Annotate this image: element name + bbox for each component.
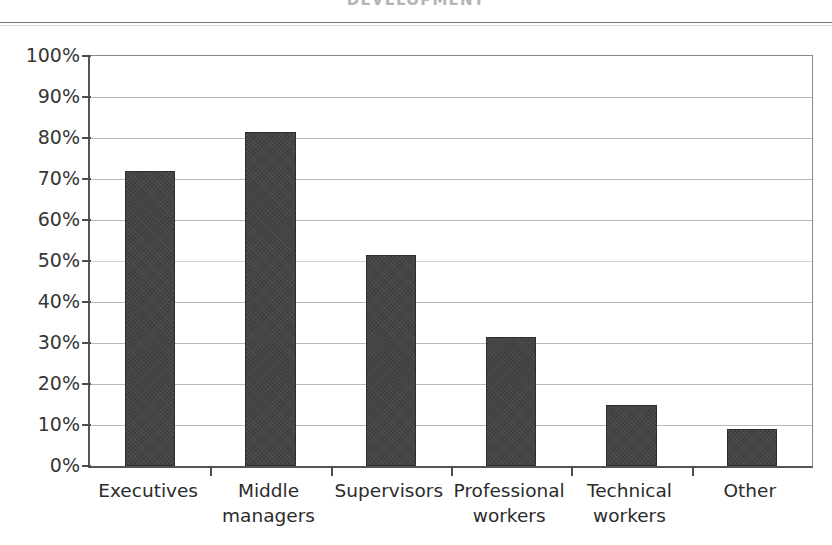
y-axis-tick	[82, 96, 91, 98]
bar-chart: 0%10%20%30%40%50%60%70%80%90%100% Execut…	[0, 30, 832, 545]
x-axis-category-label: Middle managers	[208, 478, 328, 528]
gridline	[90, 220, 812, 221]
y-axis-tick-label: 60%	[6, 208, 80, 230]
y-axis-tick-label: 50%	[6, 249, 80, 271]
x-axis-category-label: Professional workers	[449, 478, 569, 528]
y-axis-tick-label: 80%	[6, 126, 80, 148]
y-axis-tick-label: 30%	[6, 331, 80, 353]
gridline	[90, 384, 812, 385]
gridline	[90, 97, 812, 98]
y-axis-tick	[82, 424, 91, 426]
y-axis-tick-label: 10%	[6, 413, 80, 435]
y-axis-tick	[82, 383, 91, 385]
gridline	[90, 261, 812, 262]
x-axis-category-label: Technical workers	[569, 478, 689, 528]
gridline	[90, 425, 812, 426]
bar[interactable]	[486, 337, 537, 466]
y-axis-tick-label: 40%	[6, 290, 80, 312]
y-axis-tick	[82, 178, 91, 180]
y-axis-tick-label: 0%	[6, 454, 80, 476]
bar[interactable]	[366, 255, 417, 466]
y-axis-labels: 0%10%20%30%40%50%60%70%80%90%100%	[0, 55, 80, 465]
gridline	[90, 343, 812, 344]
x-axis-tick	[331, 466, 333, 476]
y-axis-tick	[82, 137, 91, 139]
bar[interactable]	[125, 171, 176, 466]
y-axis-tick	[82, 55, 91, 57]
header-divider-secondary	[0, 25, 832, 26]
x-axis-tick	[692, 466, 694, 476]
x-axis-tick	[571, 466, 573, 476]
x-axis-tick	[210, 466, 212, 476]
page-title: DEVELOPMENT	[0, 0, 832, 9]
x-axis-labels: ExecutivesMiddle managersSupervisorsProf…	[88, 478, 810, 540]
y-axis-tick	[82, 342, 91, 344]
gridline	[90, 138, 812, 139]
gridline	[90, 302, 812, 303]
y-axis-tick	[82, 219, 91, 221]
plot-area	[88, 55, 813, 468]
y-axis-tick	[82, 465, 91, 467]
gridline	[90, 179, 812, 180]
y-axis-tick	[82, 260, 91, 262]
x-axis-tick	[451, 466, 453, 476]
y-axis-tick-label: 70%	[6, 167, 80, 189]
bar[interactable]	[245, 132, 296, 466]
y-axis-tick	[82, 301, 91, 303]
bar[interactable]	[606, 405, 657, 467]
y-axis-tick-label: 20%	[6, 372, 80, 394]
x-axis-category-label: Supervisors	[329, 478, 449, 503]
x-axis-category-label: Executives	[88, 478, 208, 503]
y-axis-tick-label: 90%	[6, 85, 80, 107]
x-axis-category-label: Other	[690, 478, 810, 503]
header-divider	[0, 22, 832, 23]
y-axis-tick-label: 100%	[6, 44, 80, 66]
bar[interactable]	[727, 429, 778, 466]
